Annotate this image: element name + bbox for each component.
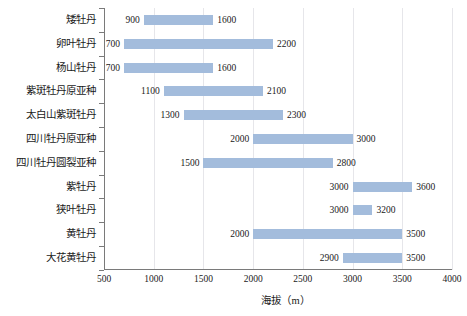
range-bar (124, 63, 213, 73)
category-label: 紫牡丹 (0, 175, 96, 199)
chart-row: 紫斑牡丹原亚种11002100 (0, 79, 467, 103)
range-bar (124, 39, 273, 49)
y-axis-tick (99, 222, 104, 223)
bar-high-value-label: 3000 (357, 127, 417, 151)
bar-low-value-label: 3000 (289, 198, 349, 222)
category-label: 四川牡丹圆裂亚种 (0, 151, 96, 175)
bar-low-value-label: 700 (60, 32, 120, 56)
y-axis-tick (99, 270, 104, 271)
range-bar (253, 134, 352, 144)
bar-high-value-label: 2100 (267, 79, 327, 103)
bar-high-value-label: 2300 (287, 103, 347, 127)
y-axis-tick (99, 103, 104, 104)
x-axis-tick-label: 2500 (283, 274, 323, 284)
x-axis-tick-label: 3500 (382, 274, 422, 284)
x-axis-tick-label: 1000 (134, 274, 174, 284)
y-axis-tick (99, 127, 104, 128)
chart-row: 大花黄牡丹29003500 (0, 246, 467, 270)
bar-low-value-label: 2000 (189, 222, 249, 246)
chart-row: 紫牡丹30003600 (0, 175, 467, 199)
bar-high-value-label: 3600 (416, 175, 467, 199)
bar-low-value-label: 700 (60, 56, 120, 80)
chart-row: 杨山牡丹7001600 (0, 56, 467, 80)
chart-row: 卵叶牡丹7002200 (0, 32, 467, 56)
bar-high-value-label: 3500 (406, 246, 466, 270)
bar-high-value-label: 2800 (337, 151, 397, 175)
y-axis-tick (99, 246, 104, 247)
category-label: 黄牡丹 (0, 222, 96, 246)
range-bar (343, 253, 403, 263)
bar-low-value-label: 3000 (289, 175, 349, 199)
range-bar (144, 15, 214, 25)
x-axis-tick-label: 4000 (432, 274, 467, 284)
bar-high-value-label: 1600 (217, 8, 277, 32)
bar-high-value-label: 3200 (376, 198, 436, 222)
chart-row: 四川牡丹圆裂亚种15002800 (0, 151, 467, 175)
category-label: 紫斑牡丹原亚种 (0, 79, 96, 103)
category-label: 狭叶牡丹 (0, 198, 96, 222)
x-axis-tick-label: 500 (84, 274, 124, 284)
range-bar (253, 229, 402, 239)
x-axis-title: 海拔（m） (0, 292, 467, 307)
y-axis-tick (99, 175, 104, 176)
bar-low-value-label: 1300 (120, 103, 180, 127)
bar-low-value-label: 900 (80, 8, 140, 32)
bar-high-value-label: 1600 (217, 56, 277, 80)
y-axis-tick (99, 151, 104, 152)
range-bar (353, 205, 373, 215)
bar-high-value-label: 3500 (406, 222, 466, 246)
x-axis-tick-label: 3000 (333, 274, 373, 284)
category-label: 太白山紫斑牡丹 (0, 103, 96, 127)
range-bar (203, 158, 332, 168)
chart-row: 黄牡丹20003500 (0, 222, 467, 246)
bar-low-value-label: 1100 (100, 79, 160, 103)
chart-row: 矮牡丹9001600 (0, 8, 467, 32)
range-bar (164, 86, 263, 96)
y-axis-tick (99, 198, 104, 199)
category-label: 大花黄牡丹 (0, 246, 96, 270)
range-bar (353, 182, 413, 192)
bar-high-value-label: 2200 (277, 32, 337, 56)
range-bar-chart: 5001000150020002500300035004000 海拔（m） 矮牡… (0, 0, 467, 316)
chart-row: 狭叶牡丹30003200 (0, 198, 467, 222)
bar-low-value-label: 2900 (279, 246, 339, 270)
chart-row: 四川牡丹原亚种20003000 (0, 127, 467, 151)
x-axis-tick-label: 1500 (183, 274, 223, 284)
chart-row: 太白山紫斑牡丹13002300 (0, 103, 467, 127)
range-bar (184, 110, 283, 120)
bar-low-value-label: 1500 (139, 151, 199, 175)
x-axis-tick-label: 2000 (233, 274, 273, 284)
category-label: 四川牡丹原亚种 (0, 127, 96, 151)
bar-low-value-label: 2000 (189, 127, 249, 151)
